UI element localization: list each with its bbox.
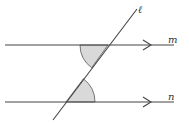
label-m: m [168, 34, 177, 45]
angle-top-marker [80, 45, 108, 68]
angle-bottom-marker [66, 79, 95, 102]
label-l: ℓ [138, 4, 142, 15]
label-n: n [168, 91, 174, 102]
transversal-l [53, 9, 137, 120]
parallel-lines-diagram: ℓ m n [0, 0, 189, 125]
